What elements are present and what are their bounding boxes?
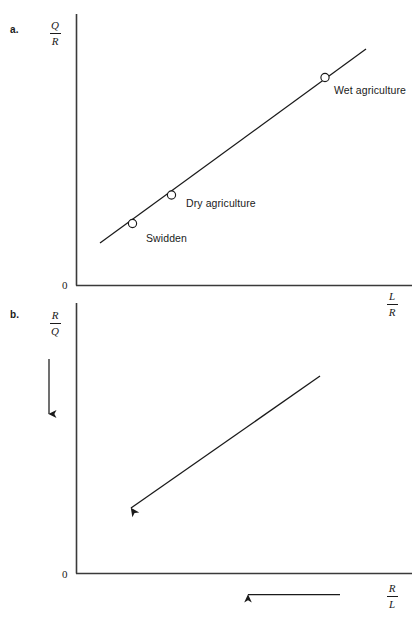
- panel-a-y-axis-denominator: R: [42, 35, 68, 48]
- panel-b-x-axis-label: R L: [379, 582, 405, 611]
- panel-a-x-axis-denominator: R: [379, 306, 405, 319]
- panel-b-x-axis-denominator: L: [379, 598, 405, 611]
- fraction-bar-icon: [50, 33, 61, 34]
- panel-b-x-axis-numerator: R: [379, 582, 405, 595]
- panel-a-axes: [76, 14, 412, 286]
- data-point-dry-agriculture: [167, 191, 175, 199]
- panel-b-y-axis-denominator: Q: [42, 325, 68, 338]
- panel-a-plot: [100, 49, 366, 243]
- panel-a-y-axis-label: Q R: [42, 19, 68, 48]
- panel-b-plot: [49, 359, 340, 595]
- data-point-swidden: [128, 219, 136, 227]
- fraction-bar-icon: [387, 596, 398, 597]
- panel-b-axes: [76, 303, 412, 574]
- panel-a-origin-label: 0: [62, 279, 68, 291]
- panel-a-y-axis-numerator: Q: [42, 19, 68, 32]
- panel-b-origin-label: 0: [62, 568, 68, 580]
- data-point-wet-agriculture: [321, 73, 329, 81]
- panel-b-y-axis-label: R Q: [42, 309, 68, 338]
- data-label-swidden: Swidden: [146, 232, 187, 244]
- fraction-bar-icon: [50, 323, 61, 324]
- panel-a-x-axis-numerator: L: [379, 290, 405, 303]
- panel-a-x-axis-label: L R: [379, 290, 405, 319]
- panel-b-letter: b.: [10, 309, 19, 320]
- panel-a-letter: a.: [10, 24, 19, 35]
- data-label-wet-agriculture: Wet agriculture: [334, 84, 406, 96]
- fraction-bar-icon: [387, 304, 398, 305]
- panel-b-trend-arrow: [131, 376, 320, 508]
- data-label-dry-agriculture: Dry agriculture: [186, 197, 256, 209]
- figure-container: a. b. Q R L R R Q R L 0 0 Swidden Dry ag…: [0, 0, 415, 620]
- panel-b-y-axis-numerator: R: [42, 309, 68, 322]
